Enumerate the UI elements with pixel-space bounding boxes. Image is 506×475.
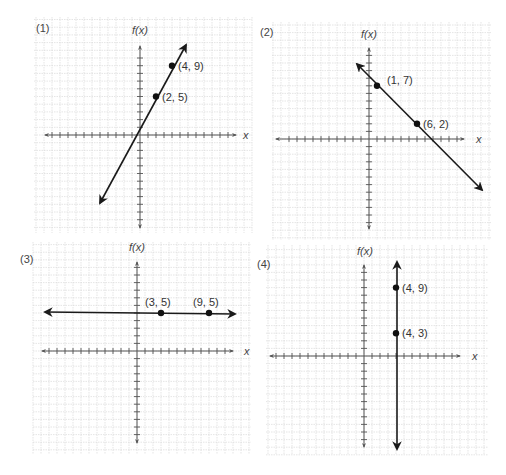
axes xyxy=(270,265,460,447)
grid xyxy=(266,245,488,455)
point-label: (4, 9) xyxy=(402,282,428,294)
point-label: (3, 5) xyxy=(145,296,171,308)
panel-label: (4) xyxy=(257,258,270,270)
x-axis-label: x xyxy=(475,133,482,145)
point-label: (4, 3) xyxy=(402,327,428,339)
y-axis-label: f(x) xyxy=(357,245,373,257)
point-label: (6, 2) xyxy=(423,118,449,130)
point-label: (9, 5) xyxy=(193,296,219,308)
axes xyxy=(42,262,233,443)
x-axis-label: x xyxy=(242,129,249,141)
y-axis-label: f(x) xyxy=(361,28,377,40)
graph-panel-3: (3)f(x)x(3, 5)(9, 5) xyxy=(20,241,251,454)
graph-panel-4: (4)f(x)x(4, 9)(4, 3) xyxy=(257,245,488,455)
data-point xyxy=(374,83,380,89)
data-point xyxy=(206,310,212,316)
data-point xyxy=(158,310,164,316)
x-axis-label: x xyxy=(471,350,478,362)
y-axis-label: f(x) xyxy=(132,24,148,36)
graph-panel-2: (2)f(x)x(1, 7)(6, 2) xyxy=(260,22,492,240)
panel-label: (3) xyxy=(20,253,33,265)
graph-panel-1: (1)f(x)x(2, 5)(4, 9) xyxy=(34,17,252,233)
point-label: (4, 9) xyxy=(178,60,204,72)
point-label: (2, 5) xyxy=(162,91,188,103)
data-point xyxy=(153,93,159,99)
panel-label: (2) xyxy=(260,26,273,38)
grid xyxy=(33,242,251,454)
axes xyxy=(276,48,464,229)
point-label: (1, 7) xyxy=(387,74,413,86)
graph-figure: (1)f(x)x(2, 5)(4, 9)(2)f(x)x(1, 7)(6, 2)… xyxy=(0,0,506,475)
x-axis-label: x xyxy=(243,345,250,357)
data-point xyxy=(169,62,175,68)
data-point xyxy=(414,121,420,127)
data-point xyxy=(393,284,399,290)
grid xyxy=(272,22,492,240)
panel-label: (1) xyxy=(36,22,49,34)
y-axis-label: f(x) xyxy=(129,241,145,253)
data-point xyxy=(393,330,399,336)
